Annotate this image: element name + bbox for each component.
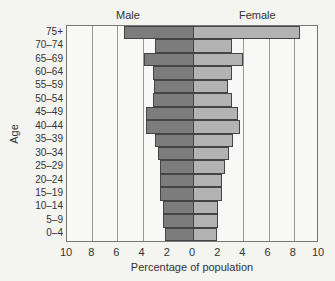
y-tick-label: 60–64: [35, 66, 63, 77]
center-axis-line: [193, 26, 194, 241]
male-bar: [153, 66, 193, 79]
x-tick-label: 8: [283, 246, 303, 258]
y-tick-label: 30–34: [35, 147, 63, 158]
age-group-row: [67, 107, 317, 120]
age-group-row: [67, 228, 317, 241]
age-group-row: [67, 214, 317, 227]
female-bar: [193, 80, 228, 93]
female-label: Female: [239, 9, 276, 21]
male-bar: [124, 26, 193, 39]
male-bar: [163, 201, 193, 214]
female-bar: [193, 26, 300, 39]
y-tick-label: 20–24: [35, 174, 63, 185]
y-tick-label: 25–29: [35, 160, 63, 171]
age-group-row: [67, 174, 317, 187]
x-tick-label: 10: [56, 246, 76, 258]
male-bar: [160, 187, 193, 200]
y-tick-label: 75+: [46, 26, 63, 37]
female-bar: [193, 147, 229, 160]
x-tick-label: 0: [182, 246, 202, 258]
male-bar: [163, 214, 193, 227]
x-tick-label: 2: [207, 246, 227, 258]
age-group-row: [67, 53, 317, 66]
x-tick-label: 10: [308, 246, 328, 258]
y-tick-label: 70–74: [35, 39, 63, 50]
y-tick-label: 35–39: [35, 133, 63, 144]
male-bar: [165, 228, 193, 241]
y-tick-label: 5–9: [46, 214, 63, 225]
x-tick-label: 2: [157, 246, 177, 258]
age-group-row: [67, 187, 317, 200]
male-label: Male: [116, 9, 140, 21]
male-bar: [146, 107, 193, 120]
age-group-row: [67, 93, 317, 106]
female-bar: [193, 187, 222, 200]
male-bar: [146, 120, 193, 133]
age-group-row: [67, 39, 317, 52]
y-tick-label: 15–19: [35, 187, 63, 198]
y-axis-label: Age: [8, 124, 20, 144]
male-bar: [160, 174, 193, 187]
male-bar: [144, 53, 193, 66]
male-bar: [158, 147, 193, 160]
male-bar: [155, 134, 193, 147]
y-tick-label: 40–44: [35, 120, 63, 131]
y-tick-label: 0–4: [46, 227, 63, 238]
x-tick-label: 8: [81, 246, 101, 258]
female-bar: [193, 107, 238, 120]
male-bar: [160, 160, 193, 173]
female-bar: [193, 120, 240, 133]
female-bar: [193, 201, 218, 214]
x-tick-label: 6: [106, 246, 126, 258]
plot-area: [66, 25, 318, 242]
x-tick-label: 4: [132, 246, 152, 258]
x-tick-label: 6: [258, 246, 278, 258]
female-bar: [193, 160, 225, 173]
y-tick-label: 10–14: [35, 200, 63, 211]
age-group-row: [67, 66, 317, 79]
female-bar: [193, 93, 232, 106]
male-bar: [155, 39, 193, 52]
x-tick-label: 4: [232, 246, 252, 258]
female-bar: [193, 214, 218, 227]
y-tick-label: 45–49: [35, 106, 63, 117]
female-bar: [193, 39, 232, 52]
y-tick-label: 50–54: [35, 93, 63, 104]
male-bar: [153, 93, 193, 106]
y-tick-label: 55–59: [35, 79, 63, 90]
age-group-row: [67, 120, 317, 133]
female-bar: [193, 134, 233, 147]
population-pyramid-chart: Male Female Age 0–45–910–1415–1920–2425–…: [0, 0, 335, 281]
age-group-row: [67, 80, 317, 93]
age-group-row: [67, 26, 317, 39]
y-tick-label: 65–69: [35, 53, 63, 64]
female-bar: [193, 53, 243, 66]
age-group-row: [67, 160, 317, 173]
female-bar: [193, 174, 222, 187]
female-bar: [193, 228, 217, 241]
female-bar: [193, 66, 232, 79]
age-group-row: [67, 134, 317, 147]
x-axis-label: Percentage of population: [0, 261, 335, 273]
age-group-row: [67, 201, 317, 214]
male-bar: [154, 80, 193, 93]
age-group-row: [67, 147, 317, 160]
